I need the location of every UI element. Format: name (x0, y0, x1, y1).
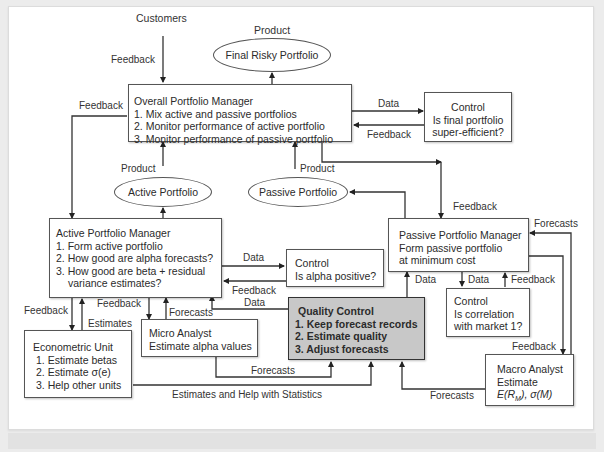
active-manager-title: Active Portfolio Manager (56, 227, 221, 240)
edge-label-feedback-micro: Feedback (97, 298, 141, 309)
quality-control-title: Quality Control (295, 305, 424, 318)
overall-manager-item: 2. Monitor performance of active portfol… (134, 120, 351, 133)
quality-control-item: 1. Keep forecast records (295, 318, 424, 331)
passive-manager-line: at minimum cost (399, 254, 528, 267)
edge-label-forecasts-micro: Forecasts (169, 307, 213, 318)
edge-label-data-passive-qc: Data (415, 274, 436, 285)
edge-label-feedback-corr: Feedback (511, 274, 555, 285)
econometric-item: 1. Estimate betas (33, 354, 131, 367)
edge-label-forecasts-macro: Forecasts (430, 390, 474, 401)
active-portfolio-node: Active Portfolio (114, 177, 212, 207)
edge-label-estimates-econ: Estimates (88, 318, 132, 329)
edge-label-forecasts-micro-qc: Forecasts (251, 365, 295, 376)
macro-analyst-formula: E(RM), σ(M) (497, 388, 573, 406)
control-alpha-line: Control (295, 257, 383, 270)
customers-label: Customers (136, 12, 187, 24)
macro-analyst-node: Macro Analyst Estimate E(RM), σ(M) (485, 354, 574, 406)
control-final-line: Is final portfolio (425, 114, 511, 127)
edge-label-feedback-macro: Feedback (512, 341, 556, 352)
overall-manager-item: 1. Mix active and passive portfolios (134, 108, 351, 121)
control-final-portfolio-node: Control Is final portfolio super-efficie… (424, 92, 512, 142)
control-correlation-line: Control (454, 295, 529, 308)
active-manager-item: 1. Form active portfolio (56, 240, 221, 253)
feedback-customers-label: Feedback (111, 54, 155, 65)
edge-label-feedback-control-alpha: Feedback (232, 285, 276, 296)
quality-control-item: 3. Adjust forecasts (295, 343, 424, 356)
edge-label-data-corr: Data (468, 274, 489, 285)
overall-portfolio-manager-node: Overall Portfolio Manager 1. Mix active … (128, 84, 352, 142)
econometric-item: 2. Estimate σ(e) (33, 366, 131, 379)
control-correlation-line: Is correlation (454, 308, 529, 321)
active-manager-item: variance estimates? (56, 277, 221, 290)
edge-label-data-control-alpha: Data (243, 252, 264, 263)
micro-analyst-line: Micro Analyst (149, 327, 257, 340)
control-alpha-node: Control Is alpha positive? (286, 249, 384, 287)
quality-control-node: Quality Control 1. Keep forecast records… (288, 297, 425, 360)
edge-label-product-passive: Product (300, 163, 334, 174)
micro-analyst-line: Estimate alpha values (149, 340, 257, 353)
control-correlation-line: with market 1? (454, 320, 529, 333)
macro-analyst-line: Estimate (497, 376, 573, 389)
product-top-label: Product (254, 24, 290, 36)
control-final-line: Control (425, 101, 511, 114)
overall-manager-title: Overall Portfolio Manager (134, 95, 351, 108)
edge-label-feedback-left: Feedback (79, 100, 123, 111)
econometric-unit-node: Econometric Unit 1. Estimate betas 2. Es… (24, 330, 132, 398)
control-correlation-node: Control Is correlation with market 1? (446, 288, 530, 337)
edge-label-data-control-final: Data (378, 98, 399, 109)
control-final-line: super-efficient? (425, 126, 511, 139)
econometric-title: Econometric Unit (33, 341, 131, 354)
edge-label-forecasts-passive: Forecasts (534, 218, 578, 229)
active-portfolio-manager-node: Active Portfolio Manager 1. Form active … (49, 218, 222, 298)
passive-portfolio-manager-node: Passive Portfolio Manager Form passive p… (388, 218, 529, 272)
passive-portfolio-node: Passive Portfolio (248, 177, 348, 207)
edge-label-estimates-help: Estimates and Help with Statistics (172, 389, 322, 400)
passive-manager-line: Form passive portfolio (399, 242, 528, 255)
micro-analyst-node: Micro Analyst Estimate alpha values (141, 319, 258, 357)
edge-label-feedback-passive-mgr: Feedback (453, 201, 497, 212)
econometric-item: 3. Help other units (33, 379, 131, 392)
formula-suffix: ), σ(M) (521, 388, 552, 400)
passive-manager-line: Passive Portfolio Manager (399, 229, 528, 242)
edge-label-feedback-econ: Feedback (24, 305, 68, 316)
quality-control-item: 2. Estimate quality (295, 330, 424, 343)
final-risky-portfolio-node: Final Risky Portfolio (213, 38, 331, 72)
edge-label-feedback-control-final: Feedback (367, 129, 411, 140)
formula-prefix: E(R (497, 388, 515, 400)
active-manager-item: 3. How good are beta + residual (56, 265, 221, 278)
edge-label-product-active: Product (121, 163, 155, 174)
control-alpha-line: Is alpha positive? (295, 270, 383, 283)
edge-label-data-qc: Data (244, 297, 265, 308)
overall-manager-item: 3. Monitor performance of passive portfo… (134, 133, 351, 146)
active-manager-item: 2. How good are alpha forecasts? (56, 252, 221, 265)
macro-analyst-line: Macro Analyst (497, 363, 573, 376)
